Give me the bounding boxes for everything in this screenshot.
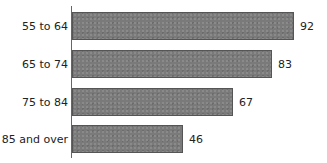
category-label: 55 to 64 [22,12,68,41]
value-label: 83 [278,50,292,79]
value-label: 67 [239,88,253,117]
bar-row: 85 and over 46 [0,125,327,154]
bar [72,50,272,78]
bar [72,125,183,153]
value-label: 46 [189,125,203,154]
value-label: 92 [300,12,314,41]
bar [72,88,233,116]
bar-row: 75 to 84 67 [0,88,327,117]
bar-row: 65 to 74 83 [0,50,327,79]
category-label: 65 to 74 [22,50,68,79]
bar [72,12,294,40]
category-label: 75 to 84 [22,88,68,117]
bar-row: 55 to 64 92 [0,12,327,41]
category-label: 85 and over [2,125,68,154]
